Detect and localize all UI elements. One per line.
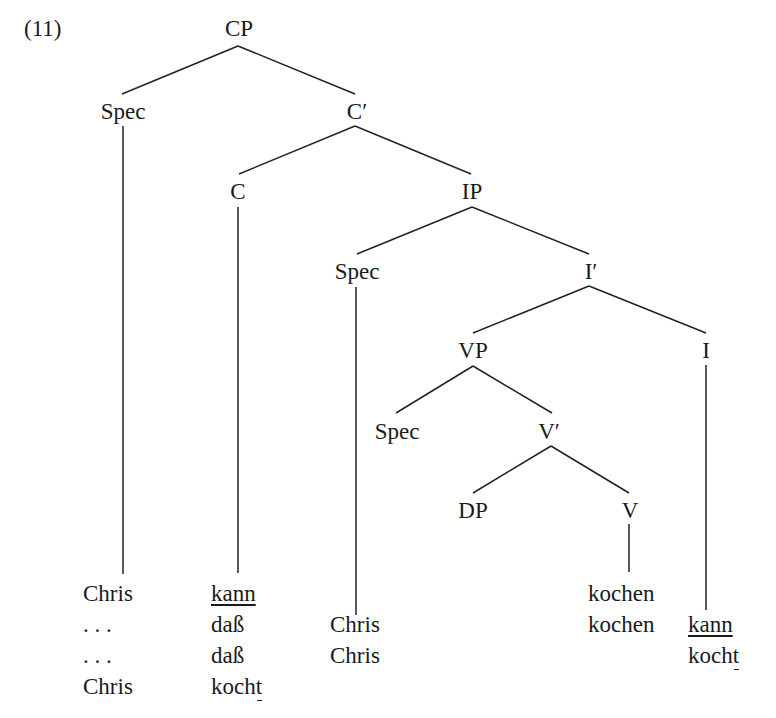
node-spec-vp: Spec <box>375 419 420 445</box>
leaf-word-stem: koch <box>211 674 256 699</box>
node-c-bar: C′ <box>347 99 367 125</box>
leaf-word: Chris <box>330 640 380 671</box>
node-spec-cp: Spec <box>101 99 146 125</box>
leaf-word-trace: kocht <box>688 640 739 671</box>
edge-cp-cbar <box>238 46 355 94</box>
node-i: I <box>702 338 710 364</box>
node-v-bar: V′ <box>538 419 560 445</box>
edge-ibar-i <box>589 286 706 333</box>
edge-cbar-ip <box>355 126 471 174</box>
trace-t: t <box>733 643 739 668</box>
edge-ip-ibar <box>472 207 589 254</box>
leaf-word: . . . <box>83 609 133 640</box>
leaf-word-stem: koch <box>688 643 733 668</box>
leaves-i: kann kocht <box>688 609 739 671</box>
edge-vbar-v <box>551 446 629 493</box>
node-i-bar: I′ <box>585 259 598 285</box>
leaf-word: . . . <box>83 640 133 671</box>
leaves-spec-cp: Chris . . . . . . Chris <box>83 578 133 702</box>
leaf-word: Chris <box>83 671 133 702</box>
node-dp: DP <box>458 498 487 524</box>
edge-ibar-vp <box>473 286 589 333</box>
node-vp: VP <box>458 338 487 364</box>
node-c: C <box>230 179 245 205</box>
leaf-word: daß <box>211 640 262 671</box>
edge-cbar-c <box>239 126 355 174</box>
node-v: V <box>622 498 639 524</box>
node-ip: IP <box>462 179 482 205</box>
edge-vp-vbar <box>473 366 552 413</box>
leaf-word: Chris <box>83 578 133 609</box>
edge-vbar-dp <box>473 446 551 493</box>
trace-t: t <box>256 674 262 699</box>
leaf-word: Chris <box>330 609 380 640</box>
leaf-word-underlined: kann <box>688 612 733 637</box>
node-spec-ip: Spec <box>335 259 380 285</box>
leaves-v: kochen kochen <box>588 578 654 640</box>
leaves-c: kann daß daß kocht <box>211 578 262 702</box>
node-cp: CP <box>225 16 253 42</box>
leaves-spec-ip: Chris Chris <box>330 609 380 671</box>
edge-ip-spec <box>357 207 472 254</box>
edge-vp-spec <box>396 366 473 413</box>
example-number: (11) <box>24 16 61 42</box>
leaf-word: kochen <box>588 609 654 640</box>
leaf-word-underlined: kann <box>211 581 256 606</box>
leaf-word: kochen <box>588 578 654 609</box>
edge-cp-spec <box>122 46 238 94</box>
leaf-word-trace: kocht <box>211 671 262 702</box>
leaf-word: daß <box>211 609 262 640</box>
